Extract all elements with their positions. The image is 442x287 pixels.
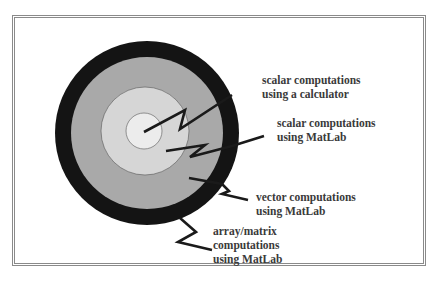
label-vector-matlab: vector computations using MatLab — [256, 190, 356, 218]
label-scalar-calculator: scalar computations using a calculator — [262, 73, 361, 101]
label-line: computations — [213, 238, 282, 252]
label-line: scalar computations — [277, 116, 376, 130]
label-line: vector computations — [256, 190, 356, 204]
label-array-matrix-matlab: array/matrix computations using MatLab — [213, 224, 282, 266]
label-line: using a calculator — [262, 87, 361, 101]
label-line: using MatLab — [256, 204, 356, 218]
label-line: using MatLab — [213, 252, 282, 266]
label-line: scalar computations — [262, 73, 361, 87]
label-scalar-matlab: scalar computations using MatLab — [277, 116, 376, 144]
label-line: using MatLab — [277, 130, 376, 144]
label-line: array/matrix — [213, 224, 282, 238]
leader-line-array — [178, 218, 212, 250]
